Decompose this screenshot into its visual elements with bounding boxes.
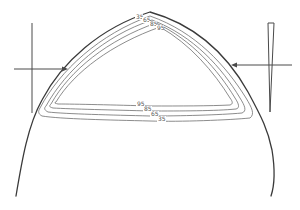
label-95-top: 95 bbox=[157, 24, 165, 31]
right-wedge bbox=[268, 23, 274, 112]
left-marker bbox=[14, 23, 68, 113]
contour-diagram: 35 65 85 95 95 85 65 35 bbox=[0, 0, 300, 210]
contour-85 bbox=[50, 23, 239, 111]
label-35-bottom: 35 bbox=[158, 115, 166, 122]
